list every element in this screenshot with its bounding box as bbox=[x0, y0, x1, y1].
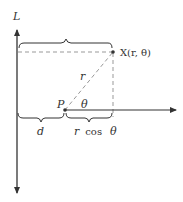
label-r-cos-theta: r cos θ bbox=[74, 121, 117, 138]
top-brace bbox=[19, 39, 112, 48]
label-P: P bbox=[56, 98, 65, 111]
label-theta: θ bbox=[81, 98, 88, 111]
dashed-radius-r bbox=[65, 52, 113, 110]
point-X-dot bbox=[111, 50, 115, 54]
polar-conic-diagram: L X(r, θ) P r θ d r cos θ bbox=[0, 0, 183, 202]
label-d: d bbox=[37, 125, 44, 138]
label-L: L bbox=[12, 10, 20, 23]
label-point-X: X(r, θ) bbox=[120, 47, 151, 58]
brace-d bbox=[18, 113, 64, 122]
label-r: r bbox=[80, 70, 86, 83]
